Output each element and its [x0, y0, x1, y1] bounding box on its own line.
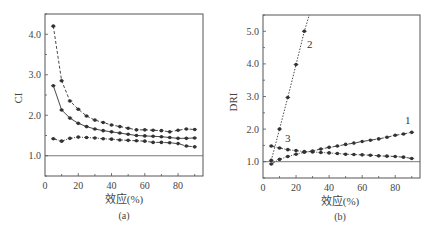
x-tick-label: 20 [291, 182, 301, 193]
y-axis-label-a: CI [12, 92, 24, 103]
x-axis-label-a: 效应(%) [105, 192, 144, 206]
series-line [53, 86, 194, 139]
y-tick-label: 5.0 [247, 26, 260, 37]
series-line [53, 26, 194, 132]
x-tick-label: 80 [173, 180, 183, 191]
series-group-a [45, 24, 203, 155]
curve-label-1: 1 [405, 114, 411, 126]
x-tick-label: 80 [390, 182, 400, 193]
y-tick-label: 4.0 [29, 29, 42, 40]
axis-ticks-b: 0204060801.02.03.04.05.0 [247, 15, 412, 193]
panel-b-chart: 0204060801.02.03.04.05.0 DRI 效应(%) (b) 1… [227, 15, 420, 223]
y-tick-label: 3.0 [29, 69, 42, 80]
series-line [271, 132, 411, 164]
curve-label-3: 3 [285, 132, 291, 144]
x-tick-label: 0 [261, 182, 266, 193]
curve-label-2: 2 [307, 38, 313, 50]
x-axis-label-b: 效应(%) [321, 194, 360, 208]
y-tick-label: 1.0 [29, 150, 42, 161]
y-tick-label: 1.0 [247, 156, 260, 167]
series-line [271, 146, 411, 158]
x-tick-label: 40 [107, 180, 117, 191]
y-tick-label: 4.0 [247, 58, 260, 69]
y-tick-label: 2.0 [247, 124, 260, 135]
y-axis-label-b: DRI [227, 92, 239, 111]
figure: 0204060801.02.03.04.0 CI 效应(%) (a) 02040… [0, 0, 431, 231]
caption-a: (a) [118, 210, 129, 222]
x-tick-label: 60 [140, 180, 150, 191]
plot-frame-a [45, 14, 203, 176]
x-tick-label: 40 [324, 182, 334, 193]
panel-a-chart: 0204060801.02.03.04.0 CI 效应(%) (a) [12, 14, 203, 222]
y-tick-label: 2.0 [29, 110, 42, 121]
caption-b: (b) [334, 211, 346, 223]
series-line [53, 137, 194, 147]
x-tick-label: 60 [357, 182, 367, 193]
axis-ticks-a: 0204060801.02.03.04.0 [29, 14, 195, 191]
x-tick-label: 20 [73, 180, 83, 191]
y-tick-label: 3.0 [247, 91, 260, 102]
x-tick-label: 0 [43, 180, 48, 191]
